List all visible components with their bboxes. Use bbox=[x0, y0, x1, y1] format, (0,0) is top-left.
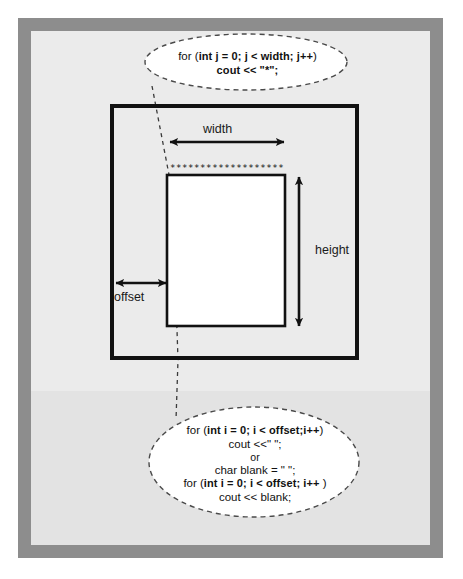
bottom-callout-text: for (int i = 0; i < offset;i++) cout <<"… bbox=[160, 424, 350, 504]
bottom-line5-code: int i = 0; i < offset; i++ bbox=[204, 477, 320, 489]
bottom-callout-line-1: for (int i = 0; i < offset;i++) bbox=[160, 424, 350, 438]
figure-page: ******************* width height offset … bbox=[0, 0, 463, 579]
top-line1-suffix: ) bbox=[313, 50, 317, 62]
top-callout-line-2: cout << "*"; bbox=[150, 64, 345, 78]
bottom-line5-prefix: for ( bbox=[183, 477, 203, 489]
asterisk-row: ******************* bbox=[170, 163, 284, 173]
bottom-line5-suffix: ) bbox=[320, 477, 327, 489]
top-line2-code: cout << "*"; bbox=[217, 64, 279, 76]
bottom-callout-line-2: cout <<" "; bbox=[160, 438, 350, 452]
top-line1-code: int j = 0; j < width; j++ bbox=[199, 50, 313, 62]
top-callout-text: for (int j = 0; j < width; j++) cout << … bbox=[150, 50, 345, 77]
bottom-line1-suffix: ) bbox=[320, 424, 324, 436]
bottom-callout-line-4: char blank = " "; bbox=[160, 464, 350, 478]
top-callout-line-1: for (int j = 0; j < width; j++) bbox=[150, 50, 345, 64]
bottom-callout-line-3: or bbox=[160, 451, 350, 463]
height-label: height bbox=[315, 243, 349, 257]
top-line1-prefix: for ( bbox=[178, 50, 198, 62]
bottom-callout-line-6: cout << blank; bbox=[160, 491, 350, 505]
width-label: width bbox=[203, 122, 232, 136]
bottom-line1-prefix: for ( bbox=[187, 424, 207, 436]
inner-rectangle bbox=[167, 175, 285, 326]
offset-label: offset bbox=[114, 290, 144, 304]
bottom-line1-code: int i = 0; i < offset;i++ bbox=[207, 424, 320, 436]
bottom-callout-line-5: for (int i = 0; i < offset; i++ ) bbox=[160, 477, 350, 491]
